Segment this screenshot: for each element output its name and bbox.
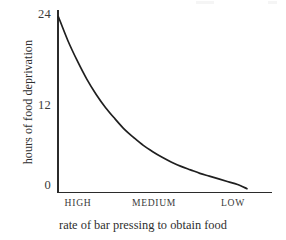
chart-figure: hours of food deprivation 24 12 0 HIGH M… bbox=[0, 0, 286, 240]
decay-curve-path bbox=[59, 17, 248, 189]
x-tick-label-medium: MEDIUM bbox=[128, 198, 180, 208]
x-tick-label-low: LOW bbox=[214, 198, 252, 208]
x-tick-label-high: HIGH bbox=[60, 198, 96, 208]
x-axis-title: rate of bar pressing to obtain food bbox=[0, 219, 286, 231]
